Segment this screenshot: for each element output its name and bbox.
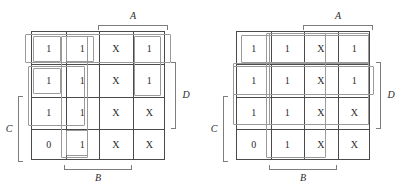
kmap-cell: X (99, 64, 133, 96)
kmap-cell: X (133, 129, 167, 161)
variable-label-a: A (323, 11, 353, 21)
bracket-variable-b (269, 165, 337, 170)
kmap-cell: 1 (237, 32, 271, 64)
kmap-cell: 0 (32, 129, 66, 161)
kmap-cell: 1 (271, 32, 305, 64)
kmap-cell: 1 (66, 129, 100, 161)
kmap-cell: 1 (66, 97, 100, 129)
bracket-variable-d (376, 62, 381, 129)
kmap-cell: X (99, 97, 133, 129)
kmap-right: A B C D 1 1 X 1 1 1 X 1 1 1 X X (205, 0, 409, 194)
kmap-cell: 1 (338, 64, 372, 96)
kmap-cell: X (304, 129, 338, 161)
kmap-cell: X (304, 32, 338, 64)
variable-label-b: B (288, 173, 318, 183)
bracket-variable-a (98, 25, 168, 30)
kmap-cell: 1 (338, 32, 372, 64)
kmap-cell: X (338, 97, 372, 129)
kmap-cell: 0 (237, 129, 271, 161)
kmap-cell: 1 (32, 64, 66, 96)
kmap-cell: 1 (271, 97, 305, 129)
kmap-cell: 1 (32, 32, 66, 64)
kmap-cell: 1 (133, 32, 167, 64)
kmap-grid-left: 1 1 X 1 1 1 X 1 1 1 X X 0 1 X X (31, 31, 165, 160)
bracket-variable-c (223, 96, 228, 162)
bracket-variable-a (303, 25, 373, 30)
kmap-cell: 1 (237, 97, 271, 129)
kmap-cell: X (338, 129, 372, 161)
kmap-left: A B C D 1 1 X 1 1 1 X 1 (0, 0, 204, 194)
bracket-variable-c (18, 96, 23, 162)
kmap-cell: X (133, 97, 167, 129)
bracket-variable-d (171, 62, 176, 129)
kmap-cell: 1 (271, 129, 305, 161)
kmap-cell: X (304, 64, 338, 96)
kmap-grid-right: 1 1 X 1 1 1 X 1 1 1 X X 0 1 X X (236, 31, 370, 160)
kmap-cell: X (99, 129, 133, 161)
kmap-cell: 1 (237, 64, 271, 96)
kmap-cell: 1 (66, 64, 100, 96)
kmap-cell: 1 (66, 32, 100, 64)
bracket-variable-b (64, 165, 132, 170)
variable-label-c: C (207, 124, 221, 134)
variable-label-c: C (2, 124, 16, 134)
kmap-cell: 1 (271, 64, 305, 96)
kmap-cell: X (304, 97, 338, 129)
kmap-cell: X (99, 32, 133, 64)
kmap-cell: 1 (32, 97, 66, 129)
variable-label-a: A (118, 11, 148, 21)
variable-label-d: D (179, 90, 193, 100)
variable-label-b: B (83, 173, 113, 183)
kmap-figure: A B C D 1 1 X 1 1 1 X 1 (0, 0, 409, 194)
variable-label-d: D (384, 90, 398, 100)
kmap-cell: 1 (133, 64, 167, 96)
